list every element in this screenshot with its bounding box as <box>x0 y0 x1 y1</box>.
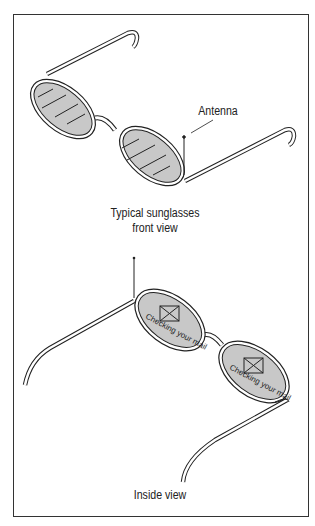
sunglasses-illustration: Checking your mail Checking your mail <box>0 0 315 526</box>
inside-view-glasses <box>25 257 300 482</box>
front-view-caption-line2: front view <box>108 221 202 235</box>
antenna-label: Antenna <box>193 104 244 118</box>
inside-view-caption: Inside view <box>126 488 194 502</box>
front-view-glasses <box>20 32 294 197</box>
front-view-caption-line1: Typical sunglasses <box>108 206 202 220</box>
